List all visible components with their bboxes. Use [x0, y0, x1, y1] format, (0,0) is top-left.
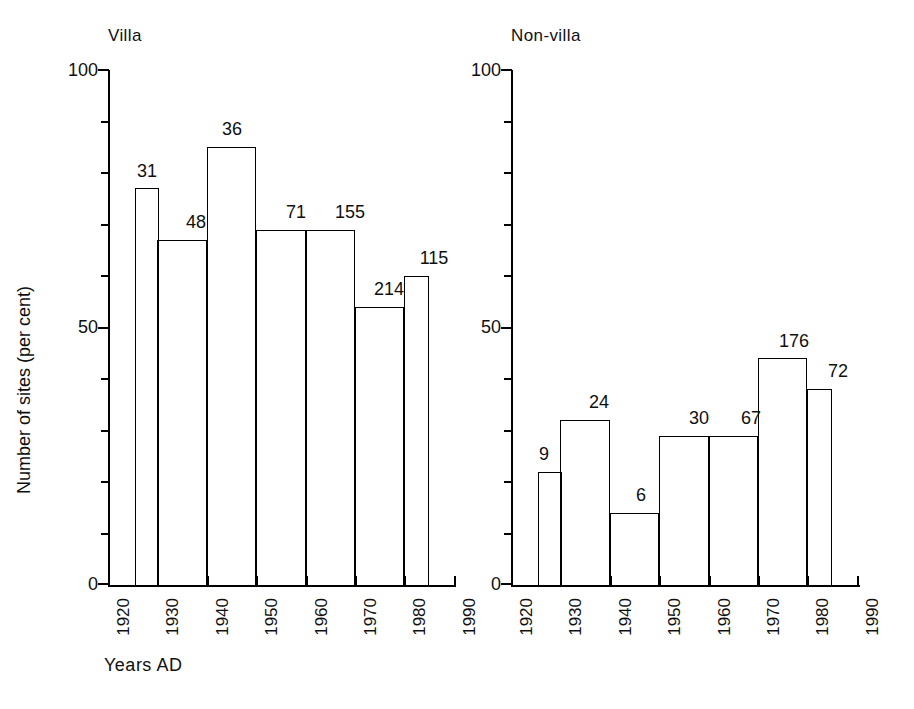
x-tick-1920-nonvilla [511, 576, 513, 587]
bar-label-nonvilla-1940: 6 [636, 485, 646, 506]
bar-villa-1925 [135, 188, 160, 585]
x-tick-label-1940-villa: 1940 [213, 598, 233, 636]
bar-nonvilla-1960 [709, 436, 758, 585]
y-tick-10-nonvilla [504, 533, 512, 535]
bar-label-villa-1930: 48 [186, 212, 206, 233]
y-tick-80-villa [101, 172, 109, 174]
panel-villa: Villa 100 50 0 [0, 0, 470, 709]
y-tick-label-0-nonvilla: 0 [457, 574, 501, 595]
bar-villa-1940 [207, 147, 256, 585]
y-tick-label-100-villa: 100 [54, 60, 98, 81]
plot-area-nonvilla: 100 50 0 1920 1930 1940 1950 1960 1970 1… [513, 70, 860, 585]
x-tick-label-1920-nonvilla: 1920 [517, 598, 537, 636]
x-tick-label-1960-nonvilla: 1960 [715, 598, 735, 636]
panel-title-nonvilla: Non-villa [511, 26, 581, 46]
bar-label-nonvilla-1950: 30 [689, 408, 709, 429]
y-tick-30-nonvilla [504, 430, 512, 432]
x-tick-label-1980-nonvilla: 1980 [813, 598, 833, 636]
bar-label-villa-1960: 155 [335, 202, 365, 223]
y-tick-70-villa [101, 224, 109, 226]
x-tick-label-1950-nonvilla: 1950 [665, 598, 685, 636]
y-tick-60-villa [101, 275, 109, 277]
x-tick-label-1990-nonvilla: 1990 [863, 598, 883, 636]
x-tick-label-1950-villa: 1950 [262, 598, 282, 636]
bar-nonvilla-1930 [560, 420, 609, 585]
figure-root: Villa 100 50 0 [0, 0, 914, 709]
bar-nonvilla-1970 [758, 358, 807, 585]
x-tick-1990-nonvilla [857, 576, 859, 587]
y-tick-30-villa [101, 430, 109, 432]
y-tick-100-villa [98, 69, 109, 71]
bar-nonvilla-1980 [807, 389, 832, 585]
y-axis-label: Number of sites (per cent) [14, 286, 35, 494]
panel-title-villa: Villa [108, 26, 142, 46]
x-tick-1920-villa [108, 576, 110, 587]
y-tick-40-villa [101, 378, 109, 380]
x-axis-label: Years AD [104, 655, 182, 676]
x-tick-label-1940-nonvilla: 1940 [616, 598, 636, 636]
y-tick-label-50-villa: 50 [54, 317, 98, 338]
y-tick-40-nonvilla [504, 378, 512, 380]
bar-label-nonvilla-1925: 9 [539, 444, 549, 465]
bar-label-villa-1925: 31 [137, 161, 157, 182]
x-tick-label-1930-villa: 1930 [163, 598, 183, 636]
bar-villa-1950 [256, 230, 305, 585]
y-tick-90-villa [101, 121, 109, 123]
y-tick-20-villa [101, 481, 109, 483]
x-tick-label-1960-villa: 1960 [312, 598, 332, 636]
bar-label-villa-1940: 36 [222, 119, 242, 140]
y-tick-60-nonvilla [504, 275, 512, 277]
bar-villa-1960 [306, 230, 355, 585]
x-tick-label-1930-nonvilla: 1930 [566, 598, 586, 636]
x-tick-label-1970-nonvilla: 1970 [764, 598, 784, 636]
y-tick-80-nonvilla [504, 172, 512, 174]
x-tick-label-1920-villa: 1920 [114, 598, 134, 636]
bar-nonvilla-1940 [610, 513, 659, 585]
y-tick-label-0-villa: 0 [54, 574, 98, 595]
x-tick-label-1970-villa: 1970 [361, 598, 381, 636]
bar-label-nonvilla-1970: 176 [779, 331, 809, 352]
bar-nonvilla-1925 [538, 472, 563, 585]
bar-nonvilla-1950 [659, 436, 708, 585]
bar-label-villa-1970: 214 [374, 279, 404, 300]
y-tick-20-nonvilla [504, 481, 512, 483]
y-tick-70-nonvilla [504, 224, 512, 226]
bar-label-villa-1950: 71 [286, 202, 306, 223]
y-tick-label-100-nonvilla: 100 [457, 60, 501, 81]
y-tick-label-50-nonvilla: 50 [457, 317, 501, 338]
y-tick-90-nonvilla [504, 121, 512, 123]
bar-label-nonvilla-1930: 24 [589, 392, 609, 413]
bar-villa-1970 [355, 307, 404, 585]
bar-villa-1930 [157, 240, 206, 585]
y-tick-10-villa [101, 533, 109, 535]
y-tick-50-villa [98, 327, 109, 329]
y-tick-50-nonvilla [501, 327, 512, 329]
bar-label-nonvilla-1980: 72 [828, 361, 848, 382]
y-tick-100-nonvilla [501, 69, 512, 71]
